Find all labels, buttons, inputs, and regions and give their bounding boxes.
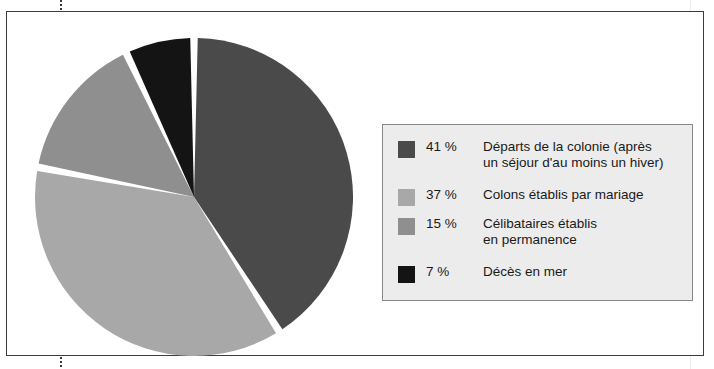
legend-swatch-celibataires (398, 218, 415, 235)
pie-slice-group (35, 38, 353, 356)
legend-label-departs: Départs de la colonie (après un séjour d… (483, 139, 663, 171)
pie-chart-svg (35, 38, 353, 356)
legend-label-deces-en-mer: Décès en mer (483, 264, 567, 280)
figure-frame: 41 % Départs de la colonie (après un séj… (6, 11, 704, 356)
legend-percent-deces-en-mer: 7 % (426, 264, 472, 280)
legend-swatch-deces-en-mer (398, 266, 415, 283)
legend-label-celibataires: Célibataires établis en permanence (483, 216, 597, 248)
legend-label-colons-maries: Colons établis par mariage (483, 187, 644, 203)
legend-item-deces-en-mer: 7 % Décès en mer (383, 264, 692, 283)
crop-mark-top (60, 0, 62, 11)
legend-swatch-departs (398, 141, 415, 158)
legend-swatch-colons-maries (398, 189, 415, 206)
cut-off-caption-text (34, 0, 364, 3)
crop-mark-bottom (60, 357, 62, 369)
figure-page: 41 % Départs de la colonie (après un séj… (0, 0, 714, 369)
legend-item-departs: 41 % Départs de la colonie (après un séj… (383, 139, 692, 171)
legend-item-celibataires: 15 % Célibataires établis en permanence (383, 216, 692, 248)
legend-percent-colons-maries: 37 % (426, 187, 472, 203)
legend-percent-departs: 41 % (426, 139, 472, 155)
pie-chart (35, 38, 353, 356)
legend-item-colons-maries: 37 % Colons établis par mariage (383, 187, 692, 206)
chart-legend: 41 % Départs de la colonie (après un séj… (382, 124, 693, 301)
legend-percent-celibataires: 15 % (426, 216, 472, 232)
